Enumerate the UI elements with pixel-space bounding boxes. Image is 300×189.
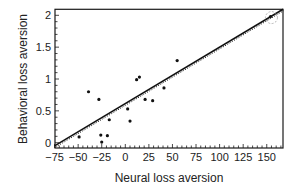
y-tick-label: 1.5 bbox=[36, 41, 51, 53]
data-point bbox=[144, 98, 147, 101]
data-point bbox=[97, 98, 100, 101]
x-tick-label: −25 bbox=[92, 151, 111, 163]
x-tick-label: 25 bbox=[143, 151, 155, 163]
data-point bbox=[108, 118, 111, 121]
data-point bbox=[106, 134, 109, 137]
x-tick-label: −50 bbox=[69, 151, 88, 163]
x-tick-label: 150 bbox=[258, 151, 276, 163]
x-tick-label: 50 bbox=[166, 151, 178, 163]
fit-line-hatch bbox=[56, 11, 284, 147]
y-tick-label: 2 bbox=[45, 9, 51, 21]
data-point bbox=[151, 99, 154, 102]
x-tick-label: 100 bbox=[210, 151, 228, 163]
x-tick-label: 0 bbox=[122, 151, 128, 163]
scatter-chart: 00.511.52 −75−50−250255075100125150 Neur… bbox=[0, 0, 300, 189]
data-point bbox=[126, 107, 129, 110]
data-point bbox=[99, 133, 102, 136]
data-point bbox=[135, 78, 138, 81]
data-point bbox=[128, 119, 131, 122]
fit-line bbox=[55, 9, 283, 146]
data-point bbox=[162, 86, 165, 89]
data-point bbox=[269, 15, 272, 18]
data-point bbox=[100, 140, 103, 143]
y-tick-label: 0 bbox=[45, 137, 51, 149]
data-point bbox=[77, 135, 80, 138]
x-tick-label: 125 bbox=[234, 151, 252, 163]
y-tick-label: 0.5 bbox=[36, 105, 51, 117]
y-tick-label: 1 bbox=[45, 73, 51, 85]
x-tick-label: 75 bbox=[190, 151, 202, 163]
x-axis-ticks: −75−50−250255075100125150 bbox=[45, 144, 281, 163]
data-point bbox=[138, 75, 141, 78]
regression-line bbox=[55, 9, 284, 147]
x-tick-label: −75 bbox=[45, 151, 64, 163]
x-axis-title: Neural loss aversion bbox=[115, 171, 224, 185]
y-axis-title: Behavioral loss aversion bbox=[16, 14, 30, 144]
data-point bbox=[87, 90, 90, 93]
data-point bbox=[176, 59, 179, 62]
data-points bbox=[77, 15, 272, 144]
